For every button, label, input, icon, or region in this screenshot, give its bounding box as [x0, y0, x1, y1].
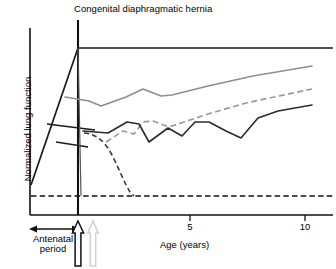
series-fatal-deterioration-dashed — [84, 133, 134, 196]
antenatal-period-label-line2: period — [22, 244, 84, 254]
x-tick-label-5: 5 — [183, 222, 197, 232]
y-axis-label: Normalized lung function — [23, 49, 33, 209]
series-moderate-impairment-gray-dashed — [106, 89, 312, 142]
series-antenatal-branch-upper — [47, 124, 95, 130]
antenatal-period-label: Antenatal period — [22, 234, 84, 254]
antenatal-arrow-head-left — [29, 225, 37, 232]
x-axis-ticks — [190, 215, 305, 221]
chart-plot-area — [0, 0, 336, 269]
series-mild-impairment-gray-solid — [65, 66, 312, 106]
series-antenatal-growth — [31, 48, 78, 185]
intervention-arrow-light-shape — [88, 221, 98, 266]
intervention-up-arrow-light — [88, 221, 98, 266]
x-axis-label: Age (years) — [160, 240, 209, 250]
x-tick-label-10: 10 — [296, 222, 314, 232]
series-severe-impairment-black-zigzag — [83, 105, 312, 142]
chart-title: Congenital diaphragmatic hernia — [74, 4, 212, 14]
series-antenatal-branch-lower — [56, 142, 88, 147]
lung-function-chart-figure: Congenital diaphragmatic hernia Normaliz… — [0, 0, 336, 269]
